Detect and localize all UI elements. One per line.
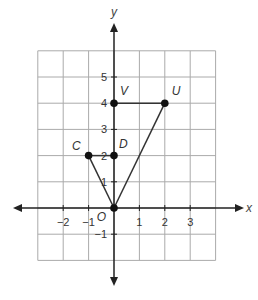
point-label-D: D [119, 137, 128, 151]
y-tick-label: 2 [101, 150, 107, 162]
x-axis-right-arrow-icon [235, 204, 244, 212]
point-label-O: O [97, 210, 106, 224]
x-tick-label: −2 [57, 216, 70, 228]
axes [13, 23, 244, 286]
point-label-V: V [120, 84, 129, 98]
x-tick-label: 2 [162, 216, 168, 228]
grid [38, 51, 216, 261]
x-axis-left-arrow-icon [13, 204, 22, 212]
y-axis-down-arrow-icon [110, 277, 118, 286]
x-tick-label: −1 [82, 216, 95, 228]
y-axis-label: y [110, 5, 118, 19]
y-tick-label: −1 [94, 228, 107, 240]
y-axis-up-arrow-icon [110, 23, 118, 32]
point-D [110, 152, 118, 160]
point-O [110, 204, 118, 212]
point-label-U: U [172, 84, 181, 98]
y-tick-label: 1 [101, 176, 107, 188]
coordinate-plane: −2−112354321−1xyVUCDO [0, 0, 258, 300]
x-tick-label: 1 [136, 216, 142, 228]
point-C [85, 152, 93, 160]
x-tick-label: 3 [187, 216, 193, 228]
point-V [110, 99, 118, 107]
y-tick-label: 3 [101, 123, 107, 135]
x-axis-label: x [245, 201, 253, 215]
point-U [161, 99, 169, 107]
y-tick-label: 4 [101, 97, 107, 109]
y-tick-label: 5 [101, 71, 107, 83]
point-label-C: C [72, 139, 81, 153]
